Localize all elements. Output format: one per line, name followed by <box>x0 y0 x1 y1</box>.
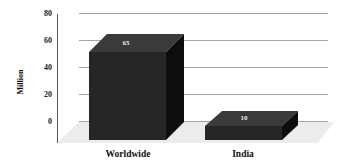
x-category-india: India <box>232 149 254 159</box>
y-tick-40: 40 <box>44 63 52 72</box>
x-category-worldwide: Worldwide <box>106 149 151 159</box>
y-tick-20: 20 <box>44 90 52 99</box>
y-tick-labels: 80 60 40 20 0 <box>44 9 52 126</box>
y-tick-0: 0 <box>48 117 52 126</box>
bar-india[interactable]: 10 <box>205 111 298 140</box>
bar-india-top <box>205 111 298 126</box>
bar-worldwide-front <box>89 52 166 140</box>
y-tick-80: 80 <box>44 9 52 18</box>
y-axis-label: Million <box>16 69 25 94</box>
y-tick-60: 60 <box>44 36 52 45</box>
bar-worldwide-value: 65 <box>123 39 131 47</box>
bar-worldwide[interactable]: 65 <box>89 34 184 140</box>
bar-india-value: 10 <box>241 114 249 122</box>
bar-india-front <box>205 126 282 140</box>
chart-canvas: 80 60 40 20 0 Million 65 10 Worldwide In… <box>0 0 344 168</box>
bar-worldwide-side <box>166 34 184 140</box>
